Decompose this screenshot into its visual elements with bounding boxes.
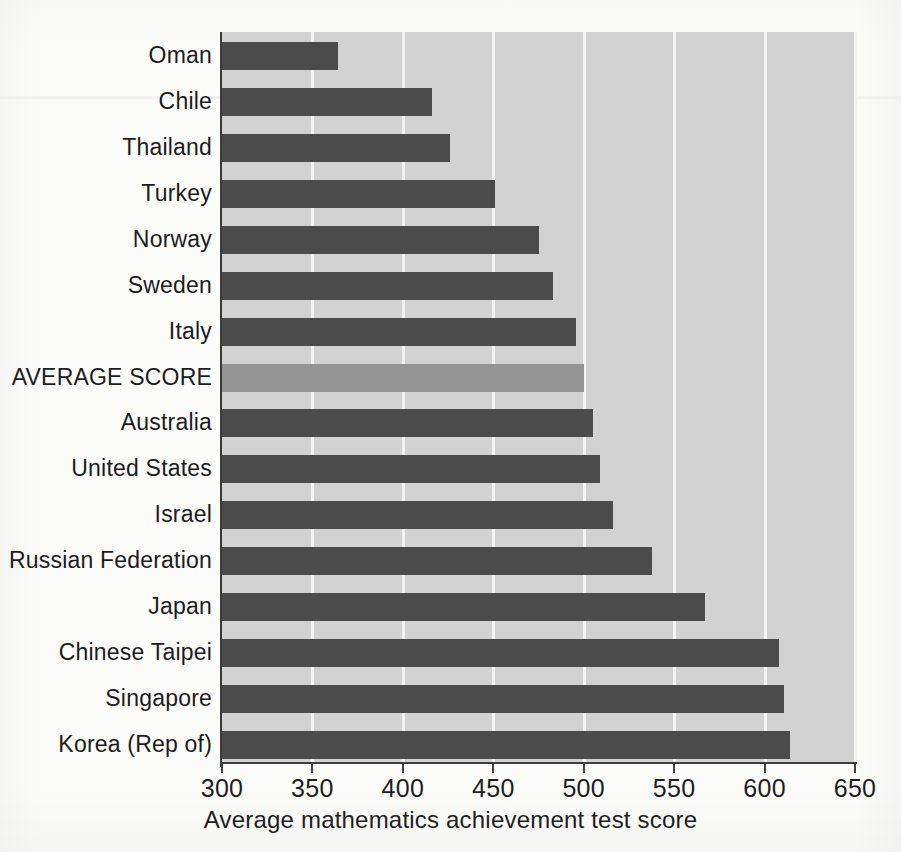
plot-area <box>222 32 855 762</box>
category-label: Oman <box>2 42 212 69</box>
category-label: Israel <box>2 501 212 528</box>
bar <box>222 501 613 529</box>
x-tick-label: 500 <box>562 774 605 803</box>
y-axis-line <box>220 32 222 767</box>
x-tick-mark <box>221 763 223 773</box>
category-label: Turkey <box>2 180 212 207</box>
bar <box>222 409 593 437</box>
x-tick-label: 650 <box>834 774 877 803</box>
bar <box>222 639 779 667</box>
bar <box>222 364 584 392</box>
category-label: Thailand <box>2 134 212 161</box>
x-tick-mark <box>673 763 675 773</box>
x-axis-line <box>220 762 857 764</box>
x-tick-label: 350 <box>291 774 334 803</box>
x-tick-mark <box>492 763 494 773</box>
category-label: United States <box>2 455 212 482</box>
bar <box>222 88 432 116</box>
bar <box>222 455 600 483</box>
gridline-650 <box>854 32 857 762</box>
category-label: Chinese Taipei <box>2 639 212 666</box>
category-label: Singapore <box>2 685 212 712</box>
category-label: Japan <box>2 593 212 620</box>
category-label: Italy <box>2 318 212 345</box>
x-axis-title: Average mathematics achievement test sco… <box>0 806 901 834</box>
category-label: Norway <box>2 226 212 253</box>
x-tick-mark <box>402 763 404 773</box>
category-label: Australia <box>2 409 212 436</box>
category-label: Russian Federation <box>2 547 212 574</box>
category-label: AVERAGE SCORE <box>2 364 212 391</box>
bar <box>222 685 784 713</box>
bar <box>222 593 705 621</box>
x-tick-mark <box>583 763 585 773</box>
category-label: Korea (Rep of) <box>2 731 212 758</box>
bar <box>222 180 495 208</box>
bar <box>222 272 553 300</box>
x-tick-label: 450 <box>472 774 515 803</box>
bar <box>222 731 790 759</box>
x-tick-mark <box>854 763 856 773</box>
category-label: Chile <box>2 88 212 115</box>
x-tick-mark <box>311 763 313 773</box>
x-tick-label: 600 <box>743 774 786 803</box>
x-tick-mark <box>764 763 766 773</box>
bar-chart: 300350400450500550600650 OmanChileThaila… <box>0 0 901 852</box>
x-tick-label: 300 <box>201 774 244 803</box>
bar <box>222 547 652 575</box>
bar <box>222 42 338 70</box>
x-tick-label: 400 <box>382 774 425 803</box>
bar <box>222 134 450 162</box>
bar <box>222 318 576 346</box>
category-label: Sweden <box>2 272 212 299</box>
bar <box>222 226 539 254</box>
x-tick-label: 550 <box>653 774 696 803</box>
